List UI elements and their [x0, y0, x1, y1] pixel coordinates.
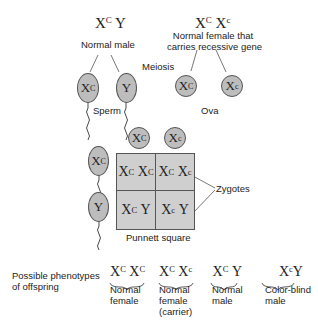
phenotype-carrier-female: XC Xc Normalfemale(carrier) [159, 265, 192, 318]
punnett-top-ovum-xc-dominant: XC [128, 127, 150, 149]
ovum-cell-xc-dominant: XC [175, 75, 197, 97]
zygote-cell: XC Xc [156, 154, 194, 191]
zygote-cell: XC XC [117, 154, 156, 191]
zygotes-label: Zygotes [216, 184, 250, 195]
punnett-top-ovum-xc-recessive: Xc [164, 127, 186, 149]
phenotypes-title-line2: of offspring [12, 282, 100, 293]
sperm-label: Sperm [93, 106, 121, 117]
punnett-square-label: Punnett square [126, 233, 190, 244]
punnett-square: XC XC XC Xc XC Y Xc Y [116, 153, 195, 230]
female-parent-genotype: XC Xc [195, 16, 230, 31]
zygote-cell: Xc Y [156, 191, 194, 229]
male-parent-label: Normal male [81, 40, 135, 51]
phenotype-normal-male: XC Y Normalmale [212, 265, 243, 307]
sperm-cell-y: Y [116, 73, 137, 103]
sperm-cell-xc: XC [77, 73, 99, 103]
ovum-cell-xc-recessive: Xc [221, 75, 243, 97]
phenotype-colorblind-male: XcY Color-blindmale [265, 265, 311, 307]
phenotypes-title: Possible phenotypes of offspring [12, 271, 100, 293]
phenotype-normal-female: XC XC Normalfemale [110, 265, 145, 307]
punnett-left-sperm-xc: XC [88, 146, 109, 176]
ova-label: Ova [201, 106, 218, 117]
female-label-line2: carries recessive gene [167, 42, 259, 53]
male-parent-genotype: XC Y [95, 16, 126, 31]
zygote-cell: XC Y [117, 191, 156, 229]
female-parent-label: Normal female that carries recessive gen… [167, 31, 259, 53]
punnett-left-sperm-y: Y [88, 192, 109, 222]
meiosis-label: Meiosis [142, 62, 174, 73]
